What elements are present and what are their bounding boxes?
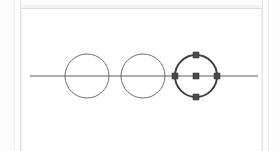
left-gutter [0, 0, 21, 151]
divider-outer-right [268, 0, 269, 151]
divider-inner-right [262, 0, 263, 151]
handle-bottom[interactable] [193, 94, 199, 100]
right-gutter [262, 0, 280, 151]
handle-center[interactable] [193, 73, 199, 79]
application-window [0, 0, 280, 151]
divider-outer-left [14, 0, 15, 151]
canvas-panel[interactable] [21, 8, 262, 151]
handle-top[interactable] [193, 52, 199, 58]
handle-left[interactable] [172, 73, 178, 79]
handle-right[interactable] [214, 73, 220, 79]
